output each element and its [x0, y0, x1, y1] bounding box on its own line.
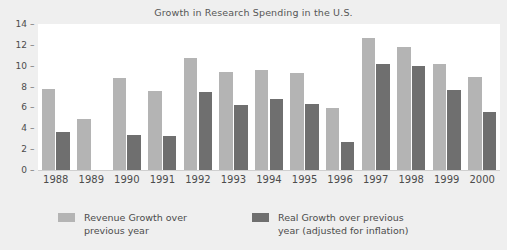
bar-real-growth[interactable] [341, 142, 355, 170]
bar-group [219, 24, 247, 170]
bar-group [42, 24, 70, 170]
y-axis-tick: 2– [13, 143, 38, 155]
x-axis-label-1999: 1999 [429, 174, 465, 185]
bar-revenue-growth[interactable] [326, 108, 340, 170]
x-axis-label-1990: 1990 [109, 174, 145, 185]
bar-revenue-growth[interactable] [42, 89, 56, 170]
y-axis-tick-mark: – [30, 101, 38, 113]
bar-series-container [38, 24, 500, 170]
x-axis-label-1998: 1998 [393, 174, 429, 185]
x-axis-label-1994: 1994 [251, 174, 287, 185]
legend-swatch-revenue-growth [58, 213, 75, 222]
y-axis-tick-label: 14 [13, 18, 27, 30]
bar-revenue-growth[interactable] [362, 38, 376, 170]
legend-label-revenue-growth: Revenue Growth over previous year [84, 211, 187, 237]
y-axis-tick-label: 0 [13, 164, 27, 176]
y-axis-tick-mark: – [30, 81, 38, 93]
bar-group [433, 24, 461, 170]
bar-real-growth[interactable] [270, 99, 284, 170]
y-axis-tick-mark: – [30, 122, 38, 134]
x-axis-label-1996: 1996 [322, 174, 358, 185]
x-axis-labels: 1988198919901991199219931994199519961997… [38, 174, 500, 190]
y-axis-tick: 14– [13, 18, 38, 30]
bar-real-growth[interactable] [305, 104, 319, 170]
y-axis-tick-label: 6 [13, 101, 27, 113]
bar-real-growth[interactable] [199, 92, 213, 170]
chart-figure: Growth in Research Spending in the U.S. … [0, 0, 507, 250]
y-axis-tick-label: 12 [13, 39, 27, 51]
y-axis-tick-mark: – [30, 143, 38, 155]
bar-revenue-growth[interactable] [255, 70, 269, 170]
bar-revenue-growth[interactable] [113, 78, 127, 170]
bar-group [113, 24, 141, 170]
y-axis-tick-label: 8 [13, 81, 27, 93]
bar-real-growth[interactable] [163, 136, 177, 170]
bar-real-growth[interactable] [234, 105, 248, 170]
bar-group [77, 24, 105, 170]
chart-legend: Revenue Growth over previous year Real G… [0, 203, 507, 250]
legend-label-real-growth: Real Growth over previous year (adjusted… [278, 211, 408, 237]
x-axis-label-1988: 1988 [38, 174, 74, 185]
y-axis-tick-label: 10 [13, 60, 27, 72]
x-axis-line [38, 170, 500, 171]
legend-item-revenue-growth: Revenue Growth over previous year [58, 211, 187, 237]
bar-revenue-growth[interactable] [148, 91, 162, 170]
bar-revenue-growth[interactable] [77, 119, 91, 170]
bar-group [290, 24, 318, 170]
x-axis-label-1993: 1993 [216, 174, 252, 185]
bar-real-growth[interactable] [483, 112, 497, 170]
bar-real-growth[interactable] [56, 132, 70, 170]
x-axis-label-1992: 1992 [180, 174, 216, 185]
bar-real-growth[interactable] [412, 66, 426, 170]
y-axis-tick: 0– [13, 164, 38, 176]
y-axis-tick: 10– [13, 60, 38, 72]
bar-group [148, 24, 176, 170]
bar-revenue-growth[interactable] [468, 77, 482, 170]
x-axis-label-1991: 1991 [145, 174, 181, 185]
bar-revenue-growth[interactable] [219, 72, 233, 170]
legend-item-real-growth: Real Growth over previous year (adjusted… [252, 211, 408, 237]
bar-group [362, 24, 390, 170]
bar-revenue-growth[interactable] [184, 58, 198, 170]
x-axis-label-1997: 1997 [358, 174, 394, 185]
x-axis-label-2000: 2000 [464, 174, 500, 185]
bar-group [397, 24, 425, 170]
bar-revenue-growth[interactable] [397, 47, 411, 170]
bar-revenue-growth[interactable] [290, 73, 304, 170]
y-axis-tick: 8– [13, 81, 38, 93]
y-axis-tick-label: 4 [13, 122, 27, 134]
legend-swatch-real-growth [252, 213, 269, 222]
y-axis-tick: 6– [13, 101, 38, 113]
y-axis-tick-mark: – [30, 18, 38, 30]
y-axis-tick-mark: – [30, 60, 38, 72]
y-axis-tick-mark: – [30, 39, 38, 51]
bar-group [326, 24, 354, 170]
bar-real-growth[interactable] [127, 135, 141, 170]
chart-title: Growth in Research Spending in the U.S. [0, 7, 507, 18]
bar-real-growth[interactable] [376, 64, 390, 170]
x-axis-label-1995: 1995 [287, 174, 323, 185]
y-axis-tick: 12– [13, 39, 38, 51]
bar-group [184, 24, 212, 170]
bar-group [468, 24, 496, 170]
y-axis-tick-label: 2 [13, 143, 27, 155]
bar-revenue-growth[interactable] [433, 64, 447, 170]
y-axis-tick-mark: – [30, 164, 38, 176]
y-axis-tick: 4– [13, 122, 38, 134]
x-axis-label-1989: 1989 [74, 174, 110, 185]
bar-group [255, 24, 283, 170]
bar-real-growth[interactable] [447, 90, 461, 170]
